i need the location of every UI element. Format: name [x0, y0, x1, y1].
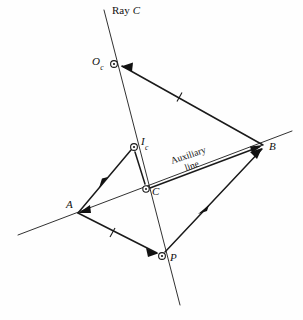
geometry-diagram: RayC Oc Ic C A B P Auxiliaryline: [0, 0, 303, 320]
point-dot-ic: [133, 146, 135, 148]
segment-a-to-p: [78, 213, 157, 253]
label-point-p: P: [170, 252, 177, 263]
point-dot-c: [145, 188, 147, 190]
label-point-ic-sub: c: [145, 143, 148, 152]
ray-c-line: [104, 10, 180, 305]
label-point-b: B: [269, 141, 276, 152]
label-ray-c-word: Ray: [112, 4, 130, 16]
label-point-ic: Ic: [141, 136, 148, 150]
arrowhead-at-oc: [121, 63, 133, 72]
label-ray-c: RayC: [112, 5, 140, 16]
label-point-oc-main: O: [92, 55, 100, 67]
segment-b-to-oc: [122, 66, 263, 145]
geometry-canvas: [0, 0, 303, 320]
label-ray-c-letter: C: [130, 4, 140, 16]
arrowhead-at-a: [79, 205, 92, 213]
point-dot-p: [161, 255, 163, 257]
label-point-a: A: [66, 199, 73, 210]
label-point-c: C: [152, 186, 159, 197]
label-point-oc-sub: c: [100, 63, 103, 72]
segment-a-to-ic: [78, 150, 131, 213]
point-dot-oc: [113, 63, 115, 65]
label-point-oc: Oc: [92, 56, 103, 70]
midarrow-on-p-b: [198, 205, 209, 214]
segment-ic-to-c: [135, 152, 145, 184]
